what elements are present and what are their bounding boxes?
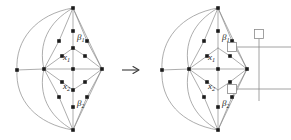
inner-arc-bottom-left [42, 69, 73, 130]
edge-lowerinnerr-hubright-r [230, 69, 247, 82]
label-x1-left: x1 [62, 52, 70, 63]
vertex-hub-right-r [245, 67, 249, 71]
vertex-outer-left [15, 68, 19, 72]
figure-canvas: β1 x1 x2 β2 [0, 0, 291, 140]
edge-hubleft-upperinnerl [44, 56, 62, 69]
edge-upperinnerr-hubright [85, 56, 102, 69]
label-x2-left: x2 [62, 81, 70, 92]
edge-hubleft-upperleftmid [44, 41, 59, 69]
label-beta1-right: β1 [221, 32, 230, 43]
vertex-lower-stem [71, 105, 75, 109]
edge-outer-left-hub-left [17, 69, 44, 70]
label-x2-right: x2 [207, 81, 215, 92]
edge-bottom-lower-left-mid [59, 97, 73, 130]
figure-root: β1 x1 x2 β2 [0, 0, 291, 140]
label-beta2-right: β2 [221, 98, 230, 109]
vertex-hub-left [42, 67, 46, 71]
label-x1-right: x1 [207, 52, 215, 63]
vertex-hub-left-r [187, 67, 191, 71]
edge-top-upper-left-mid [59, 8, 73, 41]
vertex-lower-left-mid-r [202, 95, 206, 99]
vertex-lower-inner-right-r [228, 80, 232, 84]
label-beta2-left: β2 [76, 98, 85, 109]
inner-arc-bottom-left-r [187, 69, 218, 130]
vertex-lower-left-mid [57, 95, 61, 99]
vertex-lower-apex-inner [71, 88, 75, 92]
vertex-apex-bottom [71, 128, 75, 132]
vertex-outer-left-r [160, 68, 164, 72]
edge-bottom-lower-left-mid-r [204, 97, 218, 130]
right-graph [162, 8, 247, 130]
edge-hubleft-lowerleftmid-r [189, 69, 204, 97]
vertex-lower-right-mid-r [230, 95, 234, 99]
vertex-upper-right-mid [85, 39, 89, 43]
vertex-apex-bottom-r [216, 128, 220, 132]
square-marker-lower [228, 85, 237, 94]
vertex-upper-stem-r [216, 29, 220, 33]
vertex-lower-inner-right [83, 80, 87, 84]
label-beta1-left: β1 [76, 32, 85, 43]
edge-hubleft-lowerinnerl [44, 69, 62, 82]
square-marker-root [255, 30, 264, 39]
edge-hubleft-lowerleftmid [44, 69, 59, 97]
vertex-apex-top-r [216, 6, 220, 10]
vertex-upper-left-mid-r [202, 39, 206, 43]
vertex-lower-right-mid [85, 95, 89, 99]
vertex-upper-inner-right [83, 54, 87, 58]
edge-outer-left-hub-left-r [162, 69, 189, 70]
vertex-upper-stem [71, 29, 75, 33]
vertex-hub-right [100, 67, 104, 71]
left-graph [17, 8, 102, 130]
edge-hubright-upperrightmid [87, 41, 102, 69]
vertex-hub-center [71, 67, 75, 71]
outer-arc-bottom-left [17, 70, 73, 130]
edge-lowerinnerr-hubright [85, 69, 102, 82]
vertex-apex-top [71, 6, 75, 10]
vertex-lower-stem-r [216, 105, 220, 109]
edge-hubleft-lowerinnerl-r [189, 69, 207, 82]
vertex-upper-apex-inner [71, 46, 75, 50]
transformation-arrow [122, 67, 139, 74]
edge-hubright-lowerrightmid [87, 69, 102, 97]
vertex-upper-inner-right-r [228, 54, 232, 58]
edge-hubleft-upperleftmid-r [189, 41, 204, 69]
edge-upperinnerr-hubright-r [230, 56, 247, 69]
edge-hubleft-upperinnerl-r [189, 56, 207, 69]
vertex-upper-left-mid [57, 39, 61, 43]
edge-top-upper-left-mid-r [204, 8, 218, 41]
outer-arc-bottom-left-r [162, 70, 218, 130]
vertex-hub-center-r [216, 67, 220, 71]
square-marker-upper [228, 43, 237, 52]
